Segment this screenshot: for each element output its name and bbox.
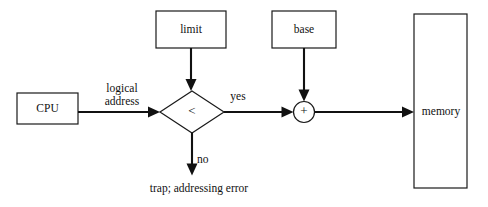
node-limit: limit [156,11,226,48]
node-adder: + [294,102,315,123]
edge-adder-memory-arrowhead [402,107,414,118]
edge-limit-compare-arrowhead [186,79,197,91]
edge-cpu-to-compare: logical address [78,82,160,118]
yes-branch-label: yes [230,90,246,103]
node-base: base [272,11,336,48]
edge-compare-adder-arrowhead [282,107,294,118]
edge-limit-to-compare [186,48,197,91]
edge-compare-no-to-trap: no trap; addressing error [150,133,249,195]
edge-compare-yes-to-adder: yes [224,90,294,118]
edge-base-adder-arrowhead [299,90,310,102]
diagram-canvas: CPU limit base memory < + [0,0,488,207]
node-cpu: CPU [17,93,78,124]
base-label: base [294,23,314,35]
cpu-label: CPU [36,102,59,114]
edge-base-to-adder [299,48,310,102]
edge-adder-to-memory [315,107,415,118]
node-compare: < [160,91,224,133]
edge-compare-trap-arrowhead [187,164,198,176]
node-memory: memory [414,14,467,188]
trap-error-label: trap; addressing error [150,182,249,195]
logical-address-label-line1: logical [106,82,137,95]
compare-operator-label: < [188,103,195,118]
memory-box-shape [414,14,467,188]
limit-label: limit [180,23,203,35]
no-branch-label: no [197,153,209,165]
memory-label: memory [422,105,461,118]
edge-cpu-compare-arrowhead [148,107,160,118]
address-protection-diagram: CPU limit base memory < + [0,0,488,207]
adder-operator-label: + [300,103,307,118]
logical-address-label-line2: address [105,95,140,107]
